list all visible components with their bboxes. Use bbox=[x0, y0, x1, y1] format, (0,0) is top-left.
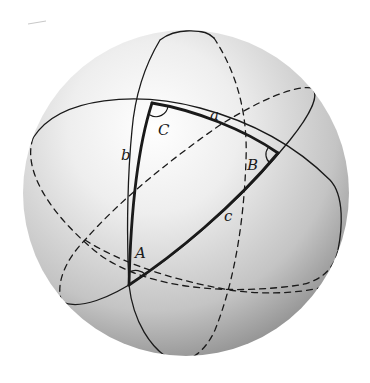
side-label-b: b bbox=[121, 146, 131, 164]
scan-mark bbox=[28, 21, 46, 24]
sphere bbox=[23, 30, 349, 356]
vertex-label-c: C bbox=[158, 121, 170, 139]
vertex-label-a: A bbox=[133, 244, 146, 262]
vertex-label-b: B bbox=[246, 156, 258, 174]
sphere-diagram: C B A a b c bbox=[0, 0, 370, 383]
side-label-c: c bbox=[224, 207, 233, 225]
spherical-triangle-figure: C B A a b c bbox=[0, 0, 370, 383]
side-label-a: a bbox=[210, 106, 219, 124]
